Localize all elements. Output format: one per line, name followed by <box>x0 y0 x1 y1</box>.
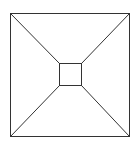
inner-square <box>60 64 82 86</box>
connector-top-right <box>82 14 130 64</box>
connector-bottom-right <box>82 86 130 137</box>
connector-bottom-left <box>11 86 60 137</box>
diagram-canvas <box>0 0 137 143</box>
connector-top-left <box>11 14 60 64</box>
